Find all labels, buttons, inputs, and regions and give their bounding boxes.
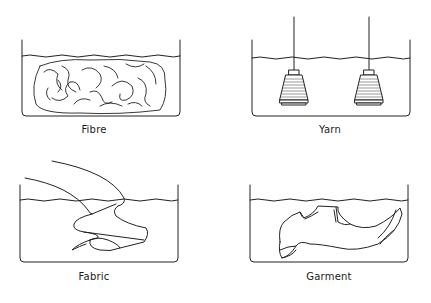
dyeing-stages-diagram xyxy=(0,0,431,303)
fabric-container xyxy=(20,185,178,262)
fibre-panel xyxy=(22,40,180,116)
fabric-label: Fabric xyxy=(79,271,110,282)
yarn-spool-right-icon xyxy=(355,17,383,105)
garment-container xyxy=(250,185,408,262)
fibre-label: Fibre xyxy=(81,124,106,135)
garment-label: Garment xyxy=(306,271,351,282)
yarn-water-line xyxy=(252,57,410,59)
yarn-container xyxy=(252,40,410,116)
fabric-swatch-icon xyxy=(25,161,148,251)
fibre-mass-icon xyxy=(34,59,166,113)
yarn-spool-left-icon xyxy=(280,17,308,105)
fabric-panel xyxy=(20,161,178,262)
fibre-water-line xyxy=(22,55,180,57)
garment-water-line xyxy=(250,199,408,201)
yarn-label: Yarn xyxy=(319,124,341,135)
garment-shirt-icon xyxy=(279,206,402,258)
fabric-water-line xyxy=(20,199,178,201)
yarn-panel xyxy=(252,17,410,116)
garment-panel xyxy=(250,185,408,262)
